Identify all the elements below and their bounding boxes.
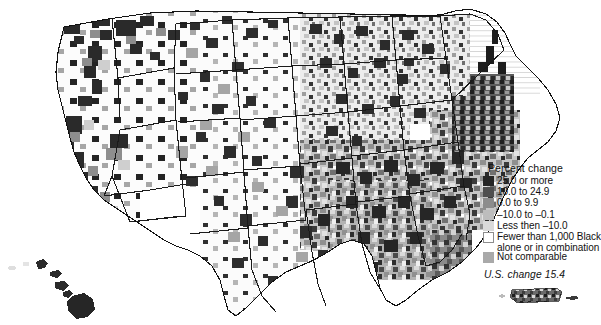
legend-swatch-10-to-24-9 — [483, 187, 494, 197]
legend-label-fewer-than-1000: Fewer than 1,000 Black alone or in combi… — [497, 232, 601, 253]
legend-label-25-or-more: 25.0 or more — [497, 176, 553, 186]
legend-swatch-fewer-than-1000 — [483, 232, 494, 242]
puerto-rico-inset — [499, 288, 579, 303]
legend-swatch-0-to-9-9 — [483, 198, 494, 208]
legend-title: Percent change — [488, 162, 601, 174]
legend-item-not-comparable: Not comparable — [483, 252, 601, 263]
legend-swatch-less-than-neg10 — [483, 221, 494, 231]
legend-label-not-comparable: Not comparable — [497, 252, 567, 262]
legend-label-less-than-neg10: Less then –10.0 — [497, 221, 567, 231]
legend-swatch-25-or-more — [483, 176, 494, 186]
legend-item-fewer-than-1000: Fewer than 1,000 Black alone or in combi… — [483, 232, 601, 252]
county-fill-regions — [56, 8, 540, 320]
legend-swatch-not-comparable — [483, 252, 494, 262]
legend-label-neg10-to-neg0-1: –10.0 to –0.1 — [497, 210, 555, 220]
legend-label-0-to-9-9: 0.0 to 9.9 — [497, 198, 538, 208]
legend-item-0-to-9-9: 0.0 to 9.9 — [483, 198, 601, 209]
map-legend: Percent change 25.0 or more 10.0 to 24.9… — [483, 162, 601, 281]
map-figure: Percent change 25.0 or more 10.0 to 24.9… — [0, 0, 601, 325]
legend-national-change-note: U.S. change 15.4 — [484, 269, 601, 281]
legend-label-10-to-24-9: 10.0 to 24.9 — [497, 187, 549, 197]
legend-swatch-neg10-to-neg0-1 — [483, 210, 494, 220]
hawaii-inset — [8, 259, 95, 319]
